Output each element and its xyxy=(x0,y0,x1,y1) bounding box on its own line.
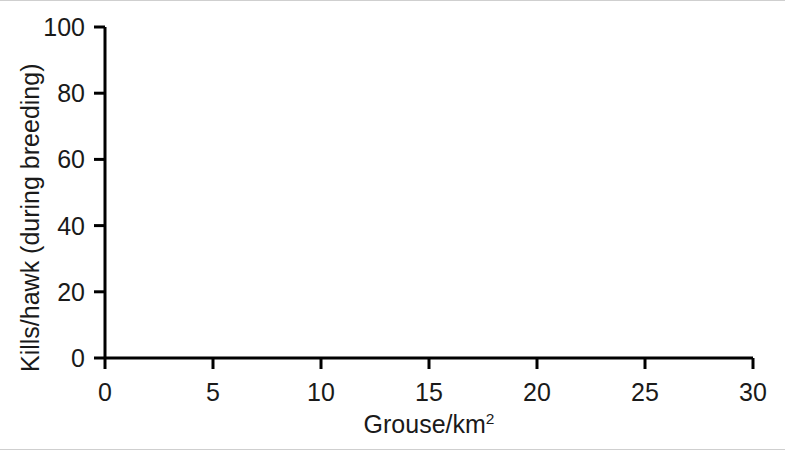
x-axis-tick-label: 0 xyxy=(98,380,112,405)
x-axis-title-superscript: 2 xyxy=(486,410,495,427)
x-axis-tick-label: 30 xyxy=(739,380,767,405)
x-axis-title: Grouse/km2 xyxy=(364,412,495,437)
plot-canvas xyxy=(0,0,785,457)
y-axis-title: Kills/hawk (during breeding) xyxy=(18,64,43,372)
y-axis-tick-label: 100 xyxy=(0,15,85,40)
axes-group xyxy=(94,27,753,369)
x-axis-tick-label: 25 xyxy=(631,380,659,405)
chart-figure: 020406080100 051015202530 Kills/hawk (du… xyxy=(0,0,785,457)
x-axis-tick-label: 20 xyxy=(523,380,551,405)
x-axis-tick-label: 10 xyxy=(307,380,335,405)
x-axis-tick-label: 5 xyxy=(206,380,220,405)
x-axis-tick-label: 15 xyxy=(415,380,443,405)
x-axis-title-base: Grouse/km xyxy=(364,410,486,438)
